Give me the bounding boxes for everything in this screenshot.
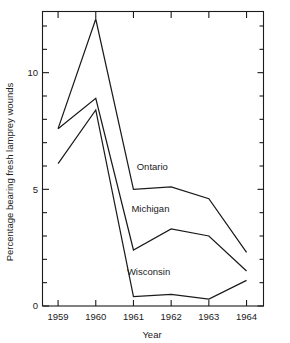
- series-label-wisconsin: Wisconsin: [127, 266, 170, 277]
- x-tick-label: 1964: [236, 311, 257, 322]
- y-axis-title: Percentage bearing fresh lamprey wounds: [4, 83, 15, 262]
- x-tick-label: 1959: [48, 311, 69, 322]
- chart-canvas: 0510 195919601961196219631964 OntarioMic…: [0, 0, 290, 343]
- y-tick-label: 5: [33, 184, 38, 195]
- x-tick-label: 1961: [123, 311, 144, 322]
- x-tick-label: 1963: [198, 311, 219, 322]
- x-tick-label: 1962: [161, 311, 182, 322]
- chart-background: [0, 0, 290, 343]
- x-tick-label: 1960: [85, 311, 106, 322]
- y-tick-label: 10: [27, 67, 38, 78]
- series-label-ontario: Ontario: [137, 161, 168, 172]
- y-tick-label: 0: [33, 300, 38, 311]
- series-label-michigan: Michigan: [131, 203, 169, 214]
- lamprey-wounds-line-chart: 0510 195919601961196219631964 OntarioMic…: [0, 0, 290, 343]
- x-axis-title: Year: [142, 329, 161, 340]
